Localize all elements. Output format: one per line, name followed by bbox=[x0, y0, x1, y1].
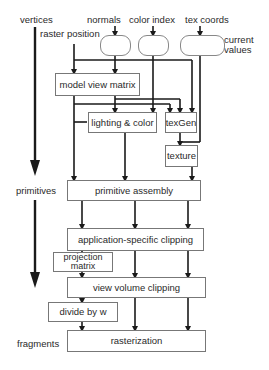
model-view-matrix-box: model view matrix bbox=[55, 73, 140, 96]
lighting-color-box: lighting & color bbox=[88, 112, 157, 133]
primitive-assembly-label: primitive assembly bbox=[95, 186, 173, 196]
lighting-color-label: lighting & color bbox=[91, 118, 153, 128]
normals-current-value bbox=[100, 35, 131, 56]
projection-matrix-box: projection matrix bbox=[53, 252, 113, 272]
texture-box: texture bbox=[165, 145, 198, 167]
view-volume-clipping-box: view volume clipping bbox=[67, 277, 206, 298]
tex-coords-current-value bbox=[180, 35, 225, 56]
projection-matrix-label: projection matrix bbox=[61, 253, 105, 272]
texgen-box: texGen bbox=[165, 112, 197, 133]
texgen-label: texGen bbox=[166, 118, 197, 128]
app-specific-clipping-label: application-specific clipping bbox=[78, 235, 193, 245]
current-values-label: current values bbox=[224, 35, 254, 56]
divide-by-w-label: divide by w bbox=[60, 307, 107, 317]
rasterization-label: rasterization bbox=[111, 336, 163, 346]
input-label-raster-position: raster position bbox=[40, 29, 100, 39]
stage-label-primitives: primitives bbox=[16, 186, 56, 196]
rasterization-box: rasterization bbox=[67, 330, 206, 352]
view-volume-clipping-label: view volume clipping bbox=[93, 283, 180, 293]
divide-by-w-box: divide by w bbox=[48, 302, 118, 322]
input-label-color-index: color index bbox=[129, 15, 175, 25]
color-index-current-value bbox=[138, 35, 169, 56]
stage-label-fragments: fragments bbox=[17, 339, 59, 349]
model-view-matrix-label: model view matrix bbox=[59, 80, 135, 90]
stage-label-vertices: vertices bbox=[20, 15, 53, 25]
primitive-assembly-box: primitive assembly bbox=[67, 180, 201, 201]
input-label-normals: normals bbox=[87, 15, 121, 25]
app-specific-clipping-box: application-specific clipping bbox=[67, 228, 204, 251]
input-label-tex-coords: tex coords bbox=[185, 15, 229, 25]
texture-label: texture bbox=[167, 151, 196, 161]
